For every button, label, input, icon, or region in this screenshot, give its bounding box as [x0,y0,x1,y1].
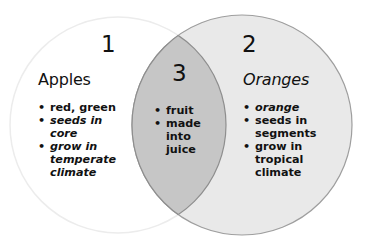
oranges-item: grow in tropical climate [243,140,316,179]
apples-item: red, green [38,101,116,114]
apples-item: grow in temperate climate [38,140,116,179]
overlap-list: fruit made into juice [154,104,201,156]
oranges-item: orange [243,101,316,114]
oranges-title: Oranges [243,72,309,88]
oranges-item: seeds in segments [243,114,316,140]
apples-title: Apples [38,72,91,88]
region-3-number: 3 [172,62,187,85]
overlap-item: made into juice [154,117,201,156]
oranges-list: orange seeds in segments grow in tropica… [243,101,316,179]
apples-list: red, green seeds in core grow in tempera… [38,101,116,179]
apples-item: seeds in core [38,114,116,140]
region-2-number: 2 [242,33,257,56]
overlap-item: fruit [154,104,201,117]
region-1-number: 1 [101,33,116,56]
